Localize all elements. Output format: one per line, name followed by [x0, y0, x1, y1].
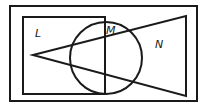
label-m: M [106, 24, 116, 37]
label-n: N [155, 38, 163, 51]
label-l: L [35, 27, 41, 40]
venn-diagram: L M N [0, 0, 205, 110]
